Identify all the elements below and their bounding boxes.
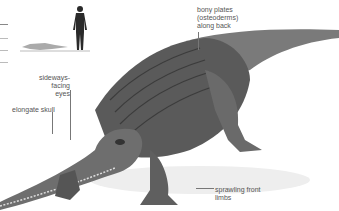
label-eyes: sideways-facing eyes: [24, 74, 70, 98]
leader-plates: [198, 32, 199, 50]
leader-skull: [52, 112, 53, 134]
label-bony-plates: bony plates (osteoderms) along back: [197, 6, 238, 30]
label-limbs: sprawling front limbs: [215, 186, 261, 202]
human-silhouette-icon: [73, 6, 87, 50]
leader-eyes: [70, 90, 71, 140]
leader-limbs: [196, 188, 214, 189]
label-skull: elongate skull: [12, 106, 55, 114]
croc-scale-silhouette-icon: [22, 43, 68, 50]
